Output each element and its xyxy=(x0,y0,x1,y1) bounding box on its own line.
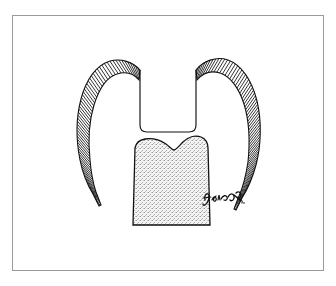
figure-page: Dental cross-section: cast crown seated … xyxy=(0,0,336,286)
dental-cross-section-illustration: Dental cross-section: cast crown seated … xyxy=(0,0,336,286)
tooth-core xyxy=(133,136,210,225)
occlusal-notch xyxy=(140,70,196,132)
left-crown-arm xyxy=(77,60,140,206)
left-crown-hatching xyxy=(77,60,140,205)
